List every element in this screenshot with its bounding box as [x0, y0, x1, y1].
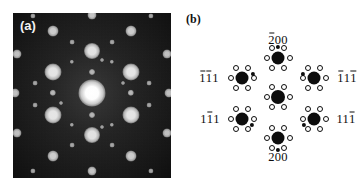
- satellite-reflection-open: [305, 126, 311, 132]
- diffraction-spot: [79, 80, 106, 107]
- diffraction-spot: [45, 107, 62, 124]
- satellite-reflection-open: [269, 104, 275, 110]
- satellite-reflection-open: [281, 84, 287, 90]
- satellite-reflection-open: [269, 125, 275, 131]
- satellite-reflection-open: [264, 94, 270, 100]
- diffraction-spot: [13, 129, 22, 138]
- index-label-lower-left: 111: [200, 112, 219, 127]
- diffraction-spot: [88, 167, 97, 176]
- diffraction-spot: [163, 50, 172, 59]
- satellite-reflection-open: [233, 126, 239, 132]
- diffraction-spot: [33, 103, 38, 108]
- diffraction-spot: [48, 26, 59, 37]
- diffraction-spot: [128, 90, 134, 96]
- matrix-reflection: [272, 132, 285, 145]
- satellite-reflection-open: [281, 125, 287, 131]
- satellite-reflection-open: [269, 65, 275, 71]
- diffraction-spot: [88, 13, 97, 20]
- index-label-top: 200: [268, 33, 287, 48]
- diffraction-spot: [147, 103, 152, 108]
- diffraction-spot: [48, 151, 59, 162]
- index-label-bottom: 200: [268, 150, 287, 165]
- diffraction-spot: [70, 143, 75, 148]
- diffraction-spot: [100, 58, 104, 62]
- diffraction-spot: [84, 127, 100, 143]
- diffraction-spot: [45, 64, 62, 81]
- diffraction-spot: [84, 43, 100, 59]
- satellite-reflection-open: [281, 104, 287, 110]
- satellite-reflection-open: [305, 65, 311, 71]
- satellite-reflection-open: [245, 106, 251, 112]
- diffraction-spot: [148, 13, 153, 18]
- panel-b-label: (b): [186, 12, 201, 27]
- diffraction-spot: [70, 123, 74, 127]
- satellite-reflection-open: [233, 85, 239, 91]
- satellite-reflection-open: [251, 116, 257, 122]
- diffraction-spot: [165, 89, 172, 98]
- diffraction-spot: [148, 168, 153, 173]
- satellite-reflection-open: [317, 126, 323, 132]
- satellite-reflection-open: [233, 65, 239, 71]
- satellite-reflection-open: [264, 55, 270, 61]
- panel-a-label: (a): [20, 18, 36, 33]
- diffraction-spot: [163, 129, 172, 138]
- satellite-reflection-open: [317, 85, 323, 91]
- diffraction-spot: [70, 60, 74, 64]
- diffraction-spot: [89, 112, 95, 118]
- diffraction-spot: [121, 81, 125, 85]
- matrix-reflection: [308, 113, 321, 126]
- satellite-reflection-open: [281, 65, 287, 71]
- diffraction-spot: [13, 50, 22, 59]
- satellite-reflection-open: [305, 85, 311, 91]
- satellite-reflection-open: [245, 126, 251, 132]
- index-label-upper-left: 111: [199, 71, 218, 86]
- matrix-reflection: [271, 90, 285, 104]
- diffraction-spot: [33, 81, 38, 86]
- diffraction-spot: [147, 81, 152, 86]
- satellite-reflection-open: [317, 65, 323, 71]
- satellite-reflection-open: [264, 135, 270, 141]
- diffraction-spot: [50, 90, 56, 96]
- panel-b-schematic: (b) 200 200 111 111 111 111: [178, 0, 355, 193]
- matrix-reflection: [272, 52, 285, 65]
- panel-a-diffraction-image: (a): [13, 13, 171, 178]
- satellite-reflection-open: [323, 75, 329, 81]
- satellite-reflection-open: [287, 55, 293, 61]
- index-label-upper-right: 111: [337, 71, 356, 86]
- diffraction-spot: [13, 89, 20, 98]
- satellite-reflection-open: [269, 84, 275, 90]
- matrix-reflection: [236, 113, 249, 126]
- diffraction-spot: [59, 101, 63, 105]
- satellite-reflection-open: [233, 106, 239, 112]
- diffraction-spot: [110, 143, 115, 148]
- diffraction-spot: [110, 123, 114, 127]
- diffraction-spot: [100, 125, 104, 129]
- satellite-reflection-open: [228, 75, 234, 81]
- diffraction-spot: [70, 40, 75, 45]
- satellite-reflection-open: [245, 85, 251, 91]
- diffraction-spot: [123, 64, 140, 81]
- satellite-reflection-open: [245, 65, 251, 71]
- diffraction-spot: [126, 26, 137, 37]
- satellite-reflection-open: [317, 106, 323, 112]
- satellite-reflection-open: [228, 116, 234, 122]
- diffraction-spot: [30, 168, 35, 173]
- satellite-reflection-open: [287, 94, 293, 100]
- twin-reflection-filled: [250, 123, 254, 127]
- satellite-reflection-open: [305, 106, 311, 112]
- index-label-lower-right: 111: [337, 112, 356, 127]
- diffraction-spot: [126, 151, 137, 162]
- diffraction-spot: [123, 107, 140, 124]
- satellite-reflection-open: [323, 116, 329, 122]
- diffraction-spot: [110, 40, 115, 45]
- matrix-reflection: [236, 72, 249, 85]
- diffraction-spot: [89, 69, 95, 75]
- diffraction-spot: [110, 60, 114, 64]
- satellite-reflection-open: [300, 116, 306, 122]
- matrix-reflection: [308, 72, 321, 85]
- satellite-reflection-open: [287, 135, 293, 141]
